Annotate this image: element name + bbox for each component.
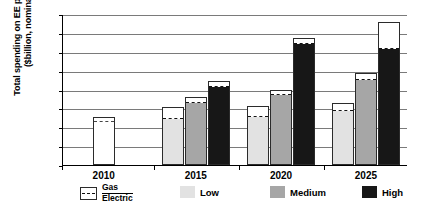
plot-area: 16141210864202010201520202025 <box>62 15 407 166</box>
y-axis-tick-mark <box>59 72 63 73</box>
gas-electric-divider <box>209 86 229 87</box>
bar-2025-low <box>332 103 354 165</box>
legend-item-low[interactable]: Low <box>180 186 219 198</box>
gridline <box>63 15 407 16</box>
bar-segment-electric <box>248 117 268 164</box>
bar-segment-electric <box>333 111 353 164</box>
x-axis-tick-mark <box>154 166 155 170</box>
bar-2025-high <box>378 22 400 165</box>
y-axis-tick-mark <box>59 34 63 35</box>
x-axis-tick-mark <box>239 166 240 170</box>
gridline <box>63 72 407 73</box>
legend-label-high: High <box>382 188 403 197</box>
bar-2025-medium <box>355 73 377 165</box>
legend-label-low: Low <box>200 188 219 197</box>
legend-swatch-high-icon <box>362 186 377 198</box>
y-axis-tick-mark <box>59 128 63 129</box>
gas-electric-divider <box>379 48 399 49</box>
y-axis-title-line-2: ($billion, nominal) <box>22 0 33 110</box>
y-axis-title: Total spending on EE programs ($billion,… <box>12 0 33 110</box>
x-axis-tick-mark <box>324 166 325 170</box>
bar-2015-medium <box>185 97 207 165</box>
legend-swatch-medium-icon <box>270 186 285 198</box>
legend-label-medium: Medium <box>290 188 326 197</box>
legend-label-gas: Gas <box>102 183 133 192</box>
legend-label-gas-electric: GasElectric <box>102 183 133 203</box>
legend-label-electric: Electric <box>102 193 133 204</box>
gas-electric-divider <box>356 79 376 80</box>
y-axis-tick-mark <box>59 15 63 16</box>
gas-electric-divider <box>333 110 353 111</box>
bar-2015-high <box>208 81 230 165</box>
y-axis-tick-mark <box>59 91 63 92</box>
bar-segment-electric <box>271 95 291 164</box>
bar-segment-electric <box>209 87 229 164</box>
legend-swatch-low-icon <box>180 186 195 198</box>
y-axis-title-line-1: Total spending on EE programs <box>12 0 23 110</box>
bar-segment-electric <box>379 49 399 164</box>
gas-electric-divider <box>248 116 268 117</box>
bar-segment-electric <box>163 119 183 164</box>
x-axis-label-2020: 2020 <box>236 171 326 181</box>
bar-2010-actual <box>93 117 115 165</box>
chart-figure: Total spending on EE programs ($billion,… <box>0 0 424 217</box>
x-axis-label-2015: 2015 <box>151 171 241 181</box>
x-axis-label-2025: 2025 <box>321 171 411 181</box>
gas-electric-divider <box>94 121 114 122</box>
bar-segment-electric <box>294 44 314 164</box>
bar-2020-high <box>293 38 315 165</box>
chart-legend: GasElectricLowMediumHigh <box>62 181 414 213</box>
gas-electric-divider <box>271 94 291 95</box>
bar-segment-electric <box>356 80 376 164</box>
legend-dashed-divider-icon <box>82 193 95 194</box>
y-axis-tick-mark <box>59 53 63 54</box>
gas-electric-divider <box>294 43 314 44</box>
legend-swatch-gas-electric-icon <box>80 187 97 200</box>
x-axis-tick-mark <box>62 166 63 170</box>
bar-2020-medium <box>270 90 292 166</box>
gridline <box>63 34 407 35</box>
y-axis-tick-mark <box>59 109 63 110</box>
gas-electric-divider <box>163 118 183 119</box>
legend-item-high[interactable]: High <box>362 186 403 198</box>
bar-2015-low <box>162 107 184 166</box>
bar-2020-low <box>247 106 269 165</box>
x-axis-label-2010: 2010 <box>59 171 149 181</box>
gridline <box>63 53 407 54</box>
gas-electric-divider <box>186 102 206 103</box>
y-axis-tick-mark <box>59 147 63 148</box>
legend-item-gas[interactable]: GasElectric <box>80 183 133 203</box>
bar-segment-electric <box>186 103 206 164</box>
bar-segment-electric <box>94 122 114 164</box>
legend-item-medium[interactable]: Medium <box>270 186 326 198</box>
